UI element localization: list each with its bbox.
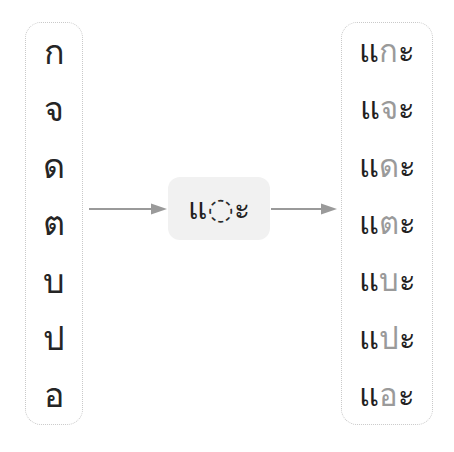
trailing-vowel-glyph: ะ <box>398 377 415 413</box>
list-item: ด <box>43 149 65 183</box>
lead-vowel-glyph: แ <box>359 148 379 184</box>
syllable-glyphs: แจะ <box>360 93 415 124</box>
pattern-text: แ◌ะ <box>188 194 249 224</box>
list-item: แปะ <box>359 323 416 354</box>
trailing-vowel-glyph: ะ <box>399 262 416 298</box>
list-item: บ <box>43 264 65 298</box>
trailing-vowel-glyph: ะ <box>399 148 416 184</box>
diagram-canvas: ก จ ด ต บ ป อ แ◌ะ <box>0 0 454 452</box>
inserted-consonant-glyph: บ <box>379 262 399 298</box>
list-item: แบะ <box>359 265 416 296</box>
lead-vowel-glyph: แ <box>360 90 380 126</box>
lead-vowel-glyph: แ <box>359 205 379 241</box>
trailing-vowel-glyph: ะ <box>234 191 250 226</box>
syllable-glyphs: แตะ <box>359 208 416 239</box>
syllable-glyphs: แอะ <box>359 380 415 411</box>
arrow-right-icon <box>271 201 337 217</box>
dotted-circle-placeholder-icon: ◌ <box>207 191 233 226</box>
syllable-glyphs: แปะ <box>359 323 416 354</box>
vowel-pattern-chip: แ◌ะ <box>168 177 270 240</box>
list-item: จ <box>44 92 64 126</box>
lead-vowel-glyph: แ <box>188 191 207 226</box>
consonant-glyph: จ <box>44 92 64 126</box>
trailing-vowel-glyph: ะ <box>398 33 415 69</box>
list-item: อ <box>44 378 64 412</box>
lead-vowel-glyph: แ <box>359 33 379 69</box>
consonant-glyph: บ <box>43 264 65 298</box>
lead-vowel-glyph: แ <box>359 262 379 298</box>
lead-vowel-glyph: แ <box>359 377 379 413</box>
inserted-consonant-glyph: อ <box>379 377 398 413</box>
list-item: แจะ <box>360 93 415 124</box>
list-item: แกะ <box>359 36 415 67</box>
list-item: ป <box>43 321 65 355</box>
list-item: แดะ <box>359 151 416 182</box>
trailing-vowel-glyph: ะ <box>398 90 415 126</box>
consonant-glyph: ป <box>43 321 65 355</box>
syllable-glyphs: แบะ <box>359 265 416 296</box>
inserted-consonant-glyph: ป <box>379 320 399 356</box>
syllable-glyphs: แกะ <box>359 36 415 67</box>
list-item: แตะ <box>359 208 416 239</box>
source-consonant-column: ก จ ด ต บ ป อ <box>25 22 83 425</box>
trailing-vowel-glyph: ะ <box>399 205 416 241</box>
list-item: ต <box>43 206 65 240</box>
arrow-right-icon <box>89 201 167 217</box>
list-item: ก <box>44 35 65 69</box>
list-item: แอะ <box>359 380 415 411</box>
trailing-vowel-glyph: ะ <box>399 320 416 356</box>
consonant-glyph: ด <box>43 149 65 183</box>
inserted-consonant-glyph: จ <box>380 90 398 126</box>
inserted-consonant-glyph: ต <box>379 205 399 241</box>
consonant-glyph: อ <box>44 378 64 412</box>
result-syllable-column: แกะ แจะ แดะ แตะ แบะ แปะ แอะ <box>341 22 433 425</box>
lead-vowel-glyph: แ <box>359 320 379 356</box>
inserted-consonant-glyph: ก <box>379 33 398 69</box>
consonant-glyph: ต <box>43 206 65 240</box>
consonant-glyph: ก <box>44 35 65 69</box>
syllable-glyphs: แดะ <box>359 151 416 182</box>
inserted-consonant-glyph: ด <box>379 148 399 184</box>
